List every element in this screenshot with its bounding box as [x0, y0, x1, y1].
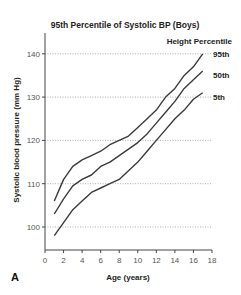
- x-tick-label: 8: [117, 256, 122, 265]
- bp-chart: 95th Percentile of Systolic BP (Boys) He…: [0, 0, 241, 295]
- series-label-95th: 95th: [213, 50, 230, 59]
- x-tick-label: 0: [43, 256, 48, 265]
- legend-title: Height Percentile: [167, 37, 233, 46]
- series-lines: [54, 54, 202, 236]
- y-tick-label: 140: [27, 50, 41, 59]
- x-tick-label: 14: [170, 256, 179, 265]
- series-line-50th: [54, 71, 202, 214]
- series-labels: 95th50th5th: [213, 50, 230, 102]
- x-tick-label: 10: [133, 256, 142, 265]
- y-tick-label: 120: [27, 136, 41, 145]
- series-label-5th: 5th: [213, 93, 225, 102]
- y-axis-label: Systolic blood pressure (mm Hg): [12, 77, 21, 203]
- x-tick-label: 6: [98, 256, 103, 265]
- y-tick-label: 100: [27, 223, 41, 232]
- x-tick-label: 2: [61, 256, 66, 265]
- x-tick-label: 16: [189, 256, 198, 265]
- x-tick-label: 12: [152, 256, 161, 265]
- gridlines: [45, 54, 212, 227]
- chart-title: 95th Percentile of Systolic BP (Boys): [51, 20, 200, 30]
- y-tick-label: 110: [27, 180, 40, 189]
- y-tick-label: 130: [27, 93, 41, 102]
- x-tick-label: 18: [208, 256, 217, 265]
- panel-label: A: [11, 271, 19, 283]
- series-line-95th: [54, 54, 202, 201]
- axes: 100110120130140024681012141618: [27, 33, 217, 265]
- x-tick-label: 4: [80, 256, 85, 265]
- x-axis-label: Age (years): [106, 273, 150, 282]
- series-label-50th: 50th: [213, 71, 230, 80]
